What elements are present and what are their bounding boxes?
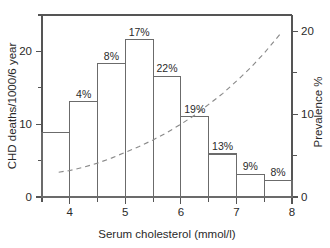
left-axis-title: CHD deaths/1000/6 year: [6, 43, 18, 170]
bar-label-9: 8%: [271, 166, 286, 178]
x-tick-label-8: 8: [289, 206, 295, 218]
x-tick-label-4: 4: [67, 206, 74, 218]
bar-5: [153, 76, 181, 197]
x-tick-label-6: 6: [178, 206, 184, 218]
left-tick-label-20: 20: [19, 45, 32, 57]
bar-label-8: 9%: [243, 160, 258, 172]
bar-label-5: 22%: [156, 62, 177, 74]
bar-3: [98, 64, 126, 197]
left-axis-ticks: [36, 15, 42, 197]
bar-7: [209, 154, 237, 197]
chart-figure: 0 10 20 0 10 20 4 5 6 7: [0, 0, 330, 248]
chart-canvas: 0 10 20 0 10 20 4 5 6 7: [0, 0, 330, 248]
x-axis-ticks: [42, 197, 292, 204]
right-axis-ticks: [292, 31, 298, 197]
left-tick-label-10: 10: [19, 118, 32, 130]
bar-2: [70, 102, 98, 197]
bar-label-4: 17%: [129, 26, 150, 38]
bar-label-2: 4%: [76, 88, 91, 100]
bar-1: [42, 133, 70, 197]
bar-label-7: 13%: [212, 140, 233, 152]
bar-label-6: 19%: [184, 103, 205, 115]
bar-9: [264, 180, 292, 197]
x-tick-label-7: 7: [233, 206, 239, 218]
prevalence-curve: [59, 33, 281, 172]
right-tick-label-20: 20: [301, 25, 314, 37]
left-tick-label-0: 0: [26, 191, 32, 203]
bar-6: [181, 117, 209, 197]
right-tick-label-0: 0: [301, 191, 307, 203]
x-tick-label-5: 5: [122, 206, 128, 218]
bottom-axis-title: Serum cholesterol (mmol/l): [98, 228, 236, 240]
bar-4: [125, 40, 153, 197]
bar-8: [236, 174, 264, 197]
bar-label-3: 8%: [104, 50, 119, 62]
right-axis-title: Prevalence %: [312, 77, 324, 148]
